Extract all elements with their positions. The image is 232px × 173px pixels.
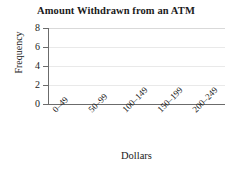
x-axis-title: Dollars — [48, 150, 225, 161]
y-tick-mark-0 — [43, 104, 48, 105]
y-tick-mark-4 — [43, 66, 48, 67]
y-tick-label-4: 4 — [22, 61, 40, 71]
gridline-4 — [48, 66, 225, 67]
y-tick-label-8: 8 — [22, 23, 40, 33]
y-axis-spine — [48, 28, 49, 105]
y-tick-label-0: 0 — [22, 99, 40, 109]
gridline-8 — [48, 28, 225, 29]
y-tick-mark-6 — [43, 47, 48, 48]
atm-withdrawal-bar-chart: Amount Withdrawn from an ATM Frequency 8… — [0, 0, 232, 173]
gridline-2 — [48, 85, 225, 86]
y-tick-label-2: 2 — [22, 80, 40, 90]
y-tick-mark-8 — [43, 28, 48, 29]
gridline-6 — [48, 47, 225, 48]
y-tick-mark-2 — [43, 85, 48, 86]
y-tick-label-6: 6 — [22, 42, 40, 52]
chart-title: Amount Withdrawn from an ATM — [0, 5, 232, 16]
